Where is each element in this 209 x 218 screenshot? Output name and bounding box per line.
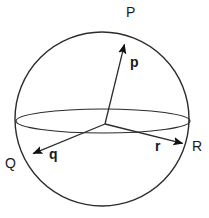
point-label-q-upper: Q bbox=[5, 156, 16, 170]
vector-r-arrow bbox=[105, 124, 183, 143]
point-label-r-upper: R bbox=[192, 139, 202, 153]
vector-label-p: p bbox=[130, 55, 139, 69]
figure-canvas bbox=[0, 0, 209, 218]
vector-label-q: q bbox=[49, 147, 58, 161]
sphere-outline bbox=[15, 32, 189, 206]
sphere-vector-figure: P p Q q R r bbox=[0, 0, 209, 218]
vector-q-arrow bbox=[33, 124, 105, 154]
vector-p-arrow bbox=[105, 44, 124, 124]
vector-label-r: r bbox=[155, 139, 160, 153]
point-label-p-upper: P bbox=[126, 5, 135, 19]
equator-ellipse bbox=[16, 109, 190, 133]
